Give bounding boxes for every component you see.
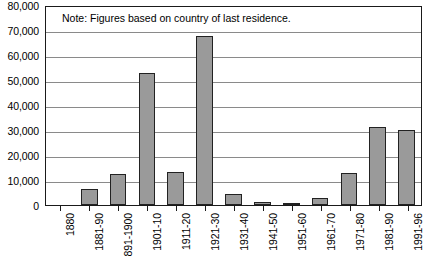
x-axis-label-cell: 1901-10 [132, 211, 161, 271]
y-axis: 80,00070,00060,00050,00040,00030,00020,0… [0, 0, 44, 212]
x-axis-label-cell: 1961-70 [306, 211, 335, 271]
bar-slot [363, 7, 392, 205]
x-axis-label-cell: 1880 [45, 211, 74, 271]
x-axis-label-cell: 1911-20 [161, 211, 190, 271]
bar [312, 198, 329, 205]
bar [225, 194, 242, 205]
bar [139, 73, 156, 206]
x-axis-label-cell: 1931-40 [219, 211, 248, 271]
bar-slot [334, 7, 363, 205]
bar-slot [190, 7, 219, 205]
bar-slot [133, 7, 162, 205]
y-axis-tick-label: 80,000 [7, 1, 39, 12]
bar [369, 127, 386, 205]
y-axis-tick-label: 40,000 [7, 101, 39, 112]
x-axis-label-cell: 1981-90 [364, 211, 393, 271]
bar-slot [161, 7, 190, 205]
bar-slot [248, 7, 277, 205]
y-axis-tick-label: 20,000 [7, 151, 39, 162]
bar [110, 174, 127, 206]
x-axis-label-cell: 1941-50 [248, 211, 277, 271]
bar-slot [46, 7, 75, 205]
x-axis-label-cell: 1881-90 [74, 211, 103, 271]
bar-slot [104, 7, 133, 205]
bar [167, 172, 184, 206]
bar-slot [306, 7, 335, 205]
plot-area: Note: Figures based on country of last r… [45, 6, 422, 206]
bar [196, 36, 213, 205]
x-axis-label-cell: 1921-30 [190, 211, 219, 271]
x-axis-label-cell: 1971-80 [335, 211, 364, 271]
y-axis-tick-label: 0 [33, 201, 39, 212]
bar [283, 203, 300, 206]
y-axis-tick-label: 60,000 [7, 51, 39, 62]
bar [81, 189, 98, 205]
y-axis-tick-label: 70,000 [7, 26, 39, 37]
bar-chart: 80,00070,00060,00050,00040,00030,00020,0… [0, 0, 431, 271]
x-axis-tick-label: 1991-96 [413, 213, 424, 251]
bar [254, 202, 271, 205]
x-axis-label-cell: 891-1900 [103, 211, 132, 271]
x-axis-label-cell: 1991-96 [393, 211, 422, 271]
x-axis: 18801881-90891-19001901-101911-201921-30… [45, 211, 422, 271]
bar-slot [219, 7, 248, 205]
bar-series [46, 7, 421, 205]
y-axis-tick-label: 30,000 [7, 126, 39, 137]
bar [341, 173, 358, 205]
bar-slot [392, 7, 421, 205]
bar-slot [277, 7, 306, 205]
y-axis-tick-label: 50,000 [7, 76, 39, 87]
x-axis-label-cell: 1951-60 [277, 211, 306, 271]
y-axis-tick-label: 10,000 [7, 176, 39, 187]
bar-slot [75, 7, 104, 205]
bar [398, 130, 415, 205]
